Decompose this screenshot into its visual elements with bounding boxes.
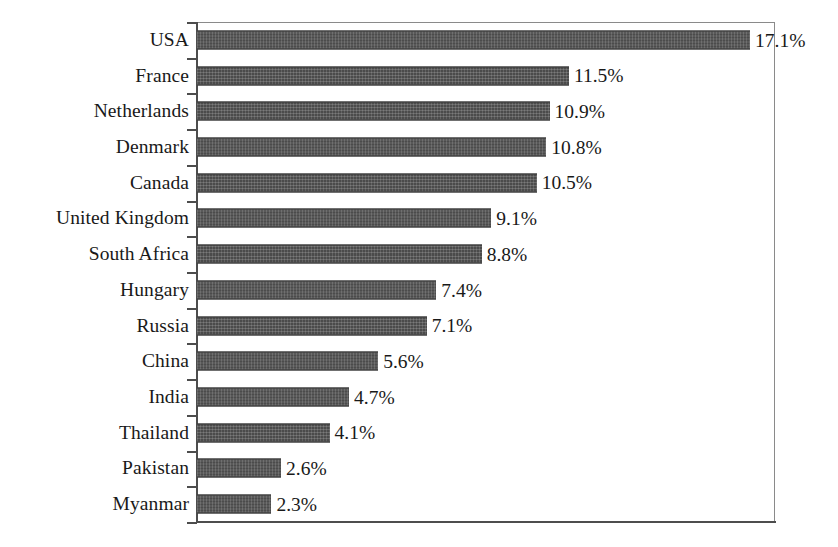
bar-rows-container: USA17.1%France11.5%Netherlands10.9%Denma… — [0, 22, 838, 522]
bar — [197, 495, 271, 514]
bar — [197, 30, 750, 49]
y-axis-tick — [187, 272, 197, 274]
bar-with-label: 11.5% — [197, 66, 624, 85]
y-axis-tick — [187, 415, 197, 417]
y-axis-tick — [187, 236, 197, 238]
bar-value-label: 7.1% — [432, 316, 473, 336]
bar — [197, 459, 281, 478]
bar-value-label: 9.1% — [496, 209, 537, 229]
bar-row: Netherlands10.9% — [0, 93, 838, 129]
bar-value-label: 7.4% — [441, 280, 482, 300]
bar-value-label: 5.6% — [383, 352, 424, 372]
y-axis-tick — [187, 343, 197, 345]
bar-with-label: 2.3% — [197, 495, 317, 514]
y-axis-tick — [187, 129, 197, 131]
y-axis-tick — [187, 486, 197, 488]
bar — [197, 66, 569, 85]
y-axis-tick — [187, 58, 197, 60]
bar-row: Hungary7.4% — [0, 272, 838, 308]
bar-value-label: 4.1% — [335, 423, 376, 443]
bar-with-label: 10.5% — [197, 173, 592, 192]
y-axis-tick — [187, 451, 197, 453]
bar — [197, 423, 330, 442]
bar-row: Canada10.5% — [0, 165, 838, 201]
bar — [197, 209, 491, 228]
category-label: India — [148, 387, 189, 407]
bar-value-label: 10.5% — [542, 173, 592, 193]
y-axis-tick — [187, 22, 197, 24]
bar — [197, 316, 427, 335]
bar-row: Thailand4.1% — [0, 415, 838, 451]
bar-with-label: 4.7% — [197, 387, 395, 406]
y-axis-tick — [187, 93, 197, 95]
category-label: France — [135, 66, 189, 86]
bar-with-label: 10.9% — [197, 102, 605, 121]
bar-with-label: 8.8% — [197, 245, 527, 264]
bar-with-label: 7.4% — [197, 280, 482, 299]
bar-value-label: 8.8% — [487, 244, 528, 264]
bar-with-label: 7.1% — [197, 316, 472, 335]
bar-with-label: 10.8% — [197, 137, 602, 156]
bar — [197, 387, 349, 406]
bar-value-label: 2.6% — [286, 459, 327, 479]
bar — [197, 137, 546, 156]
bar-row: Pakistan2.6% — [0, 451, 838, 487]
bar-row: USA17.1% — [0, 22, 838, 58]
category-label: Denmark — [116, 137, 189, 157]
category-label: Myanmar — [112, 494, 189, 514]
bar-with-label: 9.1% — [197, 209, 537, 228]
y-axis-tick — [187, 201, 197, 203]
bar — [197, 352, 378, 371]
bar — [197, 245, 482, 264]
bar-value-label: 4.7% — [354, 387, 395, 407]
horizontal-bar-chart: USA17.1%France11.5%Netherlands10.9%Denma… — [0, 0, 838, 547]
category-label: United Kingdom — [56, 209, 189, 229]
category-label: Pakistan — [122, 459, 189, 479]
bar-value-label: 2.3% — [276, 494, 317, 514]
bar — [197, 173, 537, 192]
category-label: China — [142, 352, 189, 372]
bar-row: Denmark10.8% — [0, 129, 838, 165]
bar-row: United Kingdom9.1% — [0, 201, 838, 237]
bar-row: Myanmar2.3% — [0, 486, 838, 522]
y-axis-tick — [187, 165, 197, 167]
bar-value-label: 10.9% — [555, 102, 605, 122]
bar-value-label: 17.1% — [755, 30, 805, 50]
bar — [197, 102, 550, 121]
bar — [197, 280, 436, 299]
bar-with-label: 2.6% — [197, 459, 327, 478]
bar-with-label: 17.1% — [197, 30, 805, 49]
category-label: South Africa — [89, 244, 189, 264]
y-axis-tick — [187, 379, 197, 381]
category-label: USA — [150, 30, 189, 50]
bar-value-label: 11.5% — [574, 66, 624, 86]
bar-row: China5.6% — [0, 343, 838, 379]
bar-row: France11.5% — [0, 58, 838, 94]
bar-with-label: 4.1% — [197, 423, 375, 442]
bar-with-label: 5.6% — [197, 352, 424, 371]
bar-row: South Africa8.8% — [0, 236, 838, 272]
bar-row: Russia7.1% — [0, 308, 838, 344]
bar-row: India4.7% — [0, 379, 838, 415]
category-label: Hungary — [120, 280, 189, 300]
category-label: Russia — [136, 316, 189, 336]
bar-value-label: 10.8% — [551, 137, 601, 157]
category-label: Canada — [130, 173, 189, 193]
y-axis-tick — [187, 522, 197, 524]
category-label: Thailand — [119, 423, 189, 443]
category-label: Netherlands — [94, 102, 189, 122]
y-axis-tick — [187, 308, 197, 310]
